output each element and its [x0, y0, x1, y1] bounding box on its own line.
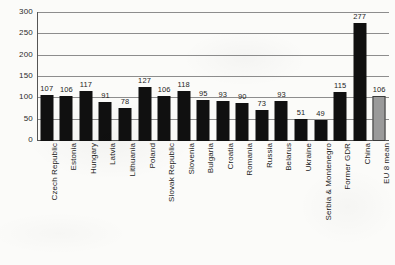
bar	[40, 95, 53, 141]
y-tick-label-50: 50	[3, 114, 33, 123]
x-label-slot: Slovak Republic	[154, 143, 174, 261]
bar	[294, 119, 307, 141]
bar	[60, 96, 73, 141]
bar-group: 95	[193, 12, 213, 141]
bar-group: 117	[76, 12, 96, 141]
bar	[353, 23, 366, 141]
bar	[314, 120, 327, 141]
bar	[79, 91, 92, 141]
bar-value-label: 117	[80, 80, 92, 89]
bar-group: 277	[350, 12, 370, 141]
y-tick-label-300: 300	[3, 7, 33, 16]
bar-value-label: 49	[316, 109, 325, 118]
x-label-slot: Croatia	[213, 143, 233, 261]
bar-value-label: 95	[199, 89, 208, 98]
y-axis-tick-labels: 050100150200250300	[0, 0, 33, 265]
x-label-slot: Serbia & Montenegro	[311, 143, 331, 261]
bar-value-label: 106	[158, 85, 171, 94]
bar-value-label: 93	[218, 90, 227, 99]
x-axis-category-labels: Czech RepublicEstoniaHungaryLatviaLithua…	[37, 143, 389, 263]
bar-group: 127	[135, 12, 155, 141]
y-tick-label-150: 150	[3, 71, 33, 80]
bar-group: 78	[115, 12, 135, 141]
bar	[177, 91, 190, 141]
bar	[99, 102, 112, 141]
x-label-slot: Hungary	[76, 143, 96, 261]
bar-group: 49	[311, 12, 331, 141]
x-axis-label-eu-8-mean: EU 8 mean	[382, 143, 391, 184]
y-tick-label-0: 0	[3, 135, 33, 144]
bar	[236, 103, 249, 141]
bar-group: 93	[272, 12, 292, 141]
bar-group: 107	[37, 12, 57, 141]
bar	[158, 96, 171, 141]
bar-value-label: 277	[353, 12, 366, 21]
x-label-slot: Slovenia	[174, 143, 194, 261]
x-label-slot: Estonia	[57, 143, 77, 261]
bar	[255, 110, 268, 141]
x-label-slot: Former GDR	[330, 143, 350, 261]
bar-value-label: 78	[121, 97, 130, 106]
bar-group: 90	[233, 12, 253, 141]
x-label-slot: Ukraine	[291, 143, 311, 261]
bar-group: 106	[57, 12, 77, 141]
bar	[373, 96, 386, 141]
y-tick-label-200: 200	[3, 50, 33, 59]
x-label-slot: EU 8 mean	[369, 143, 389, 261]
bar-value-label: 91	[101, 91, 110, 100]
y-tick-label-100: 100	[3, 92, 33, 101]
bar-value-label: 51	[297, 108, 306, 117]
bar-group: 73	[252, 12, 272, 141]
bar-value-label: 73	[258, 99, 267, 108]
y-tick-label-250: 250	[3, 28, 33, 37]
bar	[334, 92, 347, 141]
bar-group: 115	[330, 12, 350, 141]
x-label-slot: Czech Republic	[37, 143, 57, 261]
x-label-slot: Bulgaria	[193, 143, 213, 261]
bar-value-label: 106	[373, 85, 386, 94]
x-label-slot: Latvia	[96, 143, 116, 261]
bar	[216, 101, 229, 141]
bar-group: 118	[174, 12, 194, 141]
bar-value-label: 93	[277, 90, 286, 99]
x-label-slot: Romania	[233, 143, 253, 261]
bars-layer: 1071061179178127106118959390739351491152…	[37, 12, 389, 141]
x-label-slot: Belarus	[272, 143, 292, 261]
bar	[197, 100, 210, 141]
bar	[118, 108, 131, 141]
chart-page: 050100150200250300 107106117917812710611…	[0, 0, 395, 265]
bar-group: 106	[369, 12, 389, 141]
bar-group: 106	[154, 12, 174, 141]
x-label-slot: Russia	[252, 143, 272, 261]
bar	[275, 101, 288, 141]
bar-value-label: 90	[238, 92, 247, 101]
bar-value-label: 115	[334, 81, 346, 90]
x-label-slot: Lithuania	[115, 143, 135, 261]
bar-group: 93	[213, 12, 233, 141]
x-label-slot: Poland	[135, 143, 155, 261]
bar-value-label: 118	[178, 80, 190, 89]
bar-value-label: 106	[60, 85, 73, 94]
bar	[138, 87, 151, 141]
bar-group: 91	[96, 12, 116, 141]
bar-value-label: 127	[138, 76, 151, 85]
bar-value-label: 107	[40, 84, 53, 93]
x-label-slot: China	[350, 143, 370, 261]
bar-group: 51	[291, 12, 311, 141]
